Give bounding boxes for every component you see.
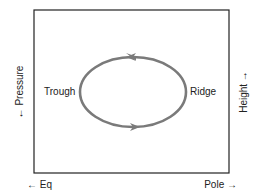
trough-label: Trough — [44, 86, 75, 97]
height-axis-label: Height → — [238, 71, 249, 113]
pressure-axis-label: ← Pressure — [14, 65, 25, 118]
circulation-diagram: Trough Ridge ← Pressure Height → ← Eq Po… — [0, 0, 258, 195]
ridge-label: Ridge — [190, 86, 217, 97]
equator-label: ← Eq — [27, 179, 52, 190]
pole-label: Pole → — [204, 179, 237, 190]
